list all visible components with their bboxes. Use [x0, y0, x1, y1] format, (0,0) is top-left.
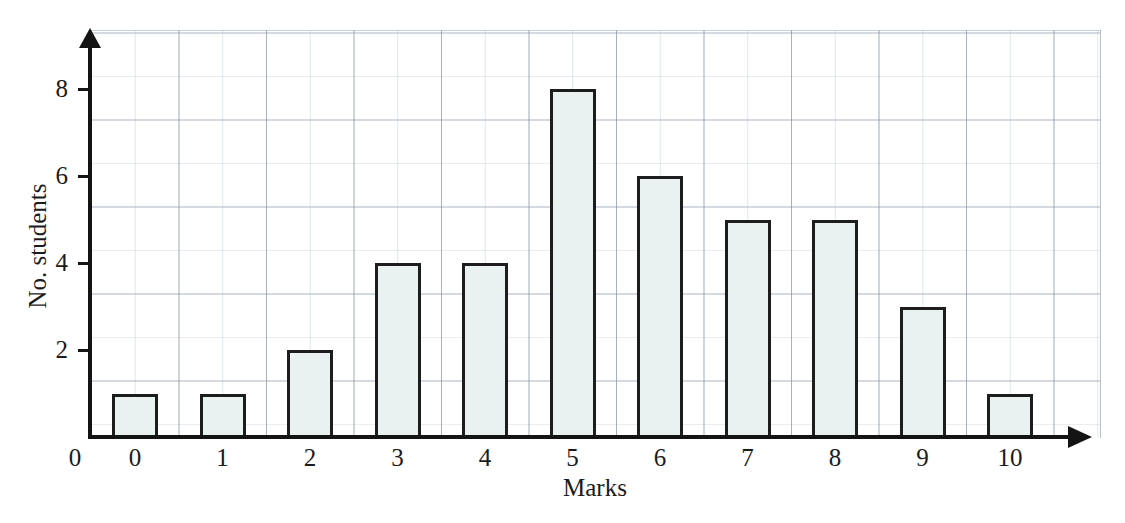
bar-8	[812, 220, 858, 438]
x-tick-label-10: 10	[980, 445, 1040, 470]
y-axis-title: No. students	[24, 146, 52, 346]
x-tick-label-9: 9	[893, 445, 953, 470]
bar-5	[550, 89, 596, 437]
x-tick-label-5: 5	[543, 445, 603, 470]
origin-label: 0	[60, 445, 90, 470]
x-tick-label-4: 4	[455, 445, 515, 470]
y-axis-line	[88, 43, 92, 439]
y-tick-2	[78, 349, 92, 352]
histogram-chart: 2468 012345678910 0 Marks No. students	[0, 0, 1125, 523]
bar-10	[987, 394, 1033, 438]
bar-2	[287, 350, 333, 437]
x-axis-line	[88, 435, 1073, 439]
grid-top-edge	[90, 30, 1101, 31]
x-tick-label-2: 2	[280, 445, 340, 470]
x-tick-label-0: 0	[105, 445, 165, 470]
x-tick-label-6: 6	[630, 445, 690, 470]
bar-7	[725, 220, 771, 438]
y-tick-6	[78, 175, 92, 178]
y-tick-8	[78, 88, 92, 91]
bar-1	[200, 394, 246, 438]
bar-9	[900, 307, 946, 438]
bar-3	[375, 263, 421, 437]
x-axis-arrow-icon	[1068, 426, 1092, 448]
x-tick-label-8: 8	[805, 445, 865, 470]
y-tick-label-8: 8	[28, 76, 68, 101]
x-tick-label-1: 1	[193, 445, 253, 470]
x-tick-label-7: 7	[718, 445, 778, 470]
bar-6	[637, 176, 683, 437]
bar-0	[112, 394, 158, 438]
y-tick-4	[78, 262, 92, 265]
grid-right-edge	[1100, 30, 1101, 438]
x-tick-label-3: 3	[368, 445, 428, 470]
x-axis-title: Marks	[495, 474, 695, 502]
bar-4	[462, 263, 508, 437]
y-axis-arrow-icon	[79, 28, 101, 48]
